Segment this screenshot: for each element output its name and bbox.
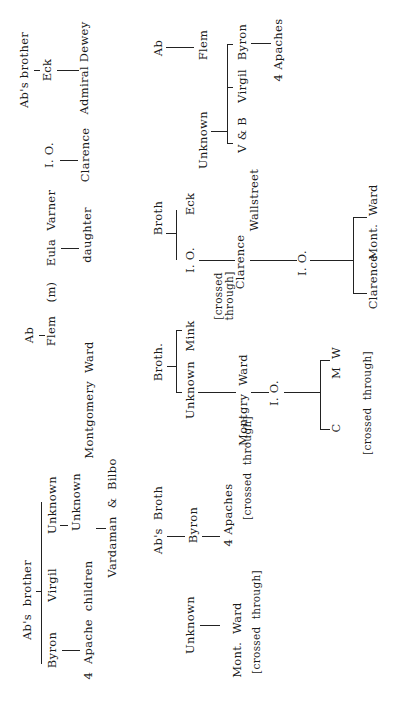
connector-line (176, 330, 182, 331)
connector-line (62, 650, 80, 651)
connector-line (199, 260, 235, 261)
label-mont-ward-right: Mont. Ward (368, 184, 380, 260)
label-m-w: M W (331, 347, 343, 379)
connector-line (284, 392, 321, 393)
connector-line (167, 536, 185, 537)
label-daughter: daughter (82, 207, 94, 263)
connector-line (198, 392, 236, 393)
label-broth-2: Broth. (153, 343, 165, 381)
label-v-and-b: V & B (237, 117, 249, 153)
label-mink: Mink (185, 320, 197, 351)
label-crossed-through-4: [crossed through] (251, 570, 262, 674)
connector-line (227, 87, 233, 88)
label-io-low: I. O. (269, 380, 281, 406)
connector-line (227, 44, 233, 45)
label-crossed-through-1: [crossed through] (213, 271, 234, 320)
connector-line (60, 160, 78, 161)
label-abs-broth: Ab's Broth (153, 486, 165, 554)
connector-line (61, 248, 79, 249)
label-ab-left: Ab (24, 327, 36, 343)
connector-line (320, 360, 330, 361)
label-io-mid: I. O. (185, 247, 197, 273)
label-byron-top: Byron (237, 24, 249, 60)
label-ab-top: Ab (153, 40, 165, 56)
connector-line (39, 335, 45, 336)
connector-line (176, 210, 177, 260)
connector-line (202, 536, 220, 537)
label-abs-brother-left: Ab's brother (22, 560, 34, 640)
label-unknown-left-2: Unknown (71, 473, 83, 531)
label-c-label: C (331, 423, 343, 432)
connector-line (176, 330, 177, 393)
connector-line (166, 233, 176, 234)
label-virgil-top: Virgil (237, 69, 249, 103)
connector-line (57, 70, 79, 71)
label-vardaman-bilbo: Vardaman & Bilbo (107, 458, 119, 577)
label-clarence-mid: Clarence (235, 235, 247, 290)
label-admiral-dewey: Admiral Dewey (79, 21, 91, 114)
label-eck-mid: Eck (185, 193, 197, 216)
connector-line (227, 44, 228, 144)
connector-line (200, 625, 220, 626)
label-unknown-left-1: Unknown (47, 476, 59, 534)
connector-line (353, 293, 367, 294)
connector-line (60, 525, 68, 526)
connector-line (353, 217, 354, 294)
label-clarence-right: Clarence (368, 255, 380, 310)
connector-line (36, 591, 42, 592)
connector-line (310, 260, 354, 261)
label-unknown-top: Unknown (198, 111, 210, 169)
connector-line (41, 502, 42, 664)
label-four-apaches-top: 4 Apaches (273, 19, 285, 82)
label-flem-top: Flem (198, 30, 210, 61)
label-m-marker: (m) (46, 282, 58, 303)
connector-line (250, 260, 297, 261)
connector-line (211, 131, 228, 132)
label-wallstreet: Wallstreet (249, 169, 261, 231)
connector-line (353, 217, 367, 218)
label-unknown-mid: Unknown (185, 361, 197, 419)
label-eula-varner: Eula Varner (46, 190, 58, 267)
connector-line (176, 392, 182, 393)
label-unknown-bottom: Unknown (185, 596, 197, 654)
genealogy-diagram: Ab's brotherEckAdmiral DeweyI. O.Clarenc… (0, 0, 397, 716)
connector-line (251, 392, 269, 393)
label-four-apache-children: 4 Apache children (83, 560, 95, 679)
label-crossed-through-3: [crossed through] (242, 416, 253, 520)
label-montgomery-ward: Montgomery Ward (84, 341, 96, 458)
connector-line (251, 43, 271, 44)
label-eck-top: Eck (42, 59, 54, 82)
label-io-right: I. O. (297, 250, 309, 276)
connector-line (166, 47, 194, 48)
connector-line (227, 143, 233, 144)
label-clarence-top: Clarence (80, 128, 92, 183)
label-byron-left: Byron (47, 632, 59, 668)
label-flem-left: Flem (46, 316, 58, 347)
connector-line (34, 70, 40, 71)
label-byron-mid: Byron (188, 507, 200, 543)
label-four-apaches-mid: 4 Apaches (223, 484, 235, 547)
label-abs-brother-top: Ab's brother (19, 32, 31, 108)
label-broth-1: Broth (153, 201, 165, 235)
connector-line (320, 429, 330, 430)
label-virgil-left: Virgil (47, 568, 59, 602)
connector-line (96, 528, 106, 529)
label-mont-ward-bottom: Mont. Ward (232, 602, 244, 678)
connector-line (320, 360, 321, 430)
label-io-top: I. O. (44, 142, 56, 168)
label-crossed-through-2: [crossed through] (362, 351, 373, 455)
